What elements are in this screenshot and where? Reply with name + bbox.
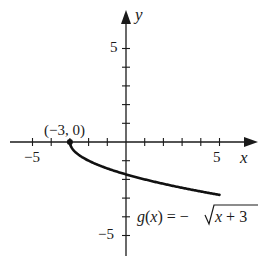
function-graph: (−3, 0) −5 5 5 −5 x y g(x) = − x + 3 bbox=[0, 0, 260, 256]
y-tick-label-neg5: −5 bbox=[98, 226, 114, 242]
svg-text:g(x) = −: g(x) = − bbox=[137, 208, 189, 226]
y-axis-label: y bbox=[133, 5, 143, 24]
x-tick-label-neg5: −5 bbox=[24, 149, 40, 165]
function-label: g(x) = − x + 3 bbox=[137, 205, 258, 226]
x-axis-label: x bbox=[239, 148, 248, 167]
y-tick-label-5: 5 bbox=[110, 39, 118, 55]
function-curve bbox=[70, 142, 220, 195]
endpoint-marker bbox=[67, 139, 73, 145]
point-label: (−3, 0) bbox=[44, 122, 85, 139]
svg-text:x + 3: x + 3 bbox=[214, 208, 247, 225]
x-tick-label-5: 5 bbox=[213, 149, 221, 165]
